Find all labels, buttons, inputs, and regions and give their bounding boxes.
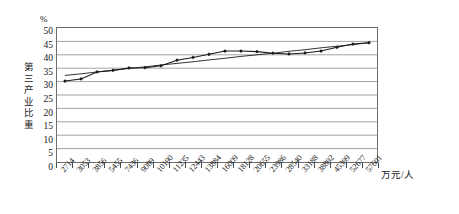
data-point-marker <box>303 51 307 55</box>
y-axis-title-char: 三 <box>22 74 35 86</box>
y-axis-tick-label: 40 <box>44 54 54 64</box>
data-point-marker <box>127 66 131 70</box>
y-axis-tick-label: 35 <box>44 68 54 78</box>
data-point-marker <box>351 42 355 46</box>
y-axis-tick-label: 50 <box>44 27 54 37</box>
y-axis-title-char: 产 <box>22 85 35 97</box>
y-axis-tick-label: 45 <box>44 41 54 51</box>
chart-svg <box>57 28 377 162</box>
data-point-marker <box>207 52 211 56</box>
gridlines-group <box>57 41 377 148</box>
y-axis-tick-label: 30 <box>44 81 54 91</box>
data-point-marker <box>111 68 115 72</box>
y-axis-tick-label: 5 <box>48 149 53 159</box>
series-line <box>65 43 369 81</box>
y-axis-tick-label: 15 <box>44 122 54 132</box>
data-point-marker <box>319 49 323 53</box>
data-point-marker <box>223 49 227 53</box>
data-point-marker <box>175 58 179 62</box>
y-axis-tick-labels: 50454035302520151050 <box>37 22 53 164</box>
data-point-marker <box>63 79 67 83</box>
y-axis-tick-label: 10 <box>44 136 54 146</box>
x-axis-unit-label: 万元/人 <box>381 170 414 181</box>
y-axis-title: 第三产业比重 <box>22 62 35 131</box>
plot-area <box>56 27 378 163</box>
data-point-marker <box>239 49 243 53</box>
y-axis-title-char: 第 <box>22 62 35 74</box>
data-point-marker <box>255 50 259 54</box>
y-axis-tick-label: 25 <box>44 95 54 105</box>
data-point-marker <box>95 70 99 74</box>
third-industry-share-chart: % 第三产业比重 50454035302520151050 2714305338… <box>0 0 459 214</box>
y-axis-title-char: 业 <box>22 97 35 109</box>
data-point-marker <box>79 77 83 81</box>
y-axis-tick-label: 20 <box>44 109 54 119</box>
data-point-marker <box>191 56 195 60</box>
data-point-marker <box>287 52 291 56</box>
y-axis-title-char: 重 <box>22 120 35 132</box>
y-axis-title-char: 比 <box>22 108 35 120</box>
